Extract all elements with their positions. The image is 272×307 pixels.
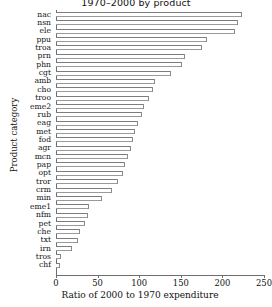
bar-crm [56,188,112,193]
bar-troo [56,96,149,101]
bar-nsn [56,20,238,25]
bar-irn [56,246,72,251]
x-axis-ticks: 050100150200250 [0,275,272,291]
x-tick-label-50: 50 [92,279,103,288]
x-tick-label-150: 150 [173,279,189,288]
y-tick-label-nfm: nfm [36,211,51,219]
bar-nac [56,12,242,17]
y-tick-label-chf: chf [39,261,51,269]
bar-met [56,129,135,134]
plot-area [56,10,271,272]
x-tick-label-100: 100 [131,279,147,288]
y-axis-tick-labels: nacnsnelepputroaprnphncgtambchotrooeme2r… [0,10,54,272]
bar-eag [56,121,138,126]
chart-title: 1970–2000 by product [0,0,272,9]
bar-nfm [56,213,88,218]
bar-ele [56,29,235,34]
bar-mcn [56,154,128,159]
bar-opt [56,171,123,176]
bar-che [56,229,80,234]
bar-eme2 [56,104,144,109]
x-tick-label-250: 250 [256,279,272,288]
bar-pet [56,221,85,226]
bar-prn [56,54,185,59]
bar-tros [56,254,61,259]
bar-phn [56,62,182,67]
y-tick-label-troo: troo [35,94,51,102]
bar-ppu [56,37,207,42]
bar-cgt [56,71,171,76]
x-axis-title: Ratio of 2000 to 1970 expenditure [16,290,264,300]
bar-rub [56,112,142,117]
bar-agr [56,146,131,151]
bar-eme1 [56,204,89,209]
bar-amb [56,79,155,84]
x-tick-label-0: 0 [53,279,58,288]
bar-chf [56,263,60,268]
bar-troa [56,45,202,50]
bar-min [56,196,102,201]
bar-fod [56,137,133,142]
bar-pap [56,162,125,167]
bar-chart: 1970–2000 by product Product category na… [0,0,272,307]
bar-tror [56,179,118,184]
x-tick-label-200: 200 [214,279,230,288]
bar-cho [56,87,153,92]
bar-txt [56,238,78,243]
